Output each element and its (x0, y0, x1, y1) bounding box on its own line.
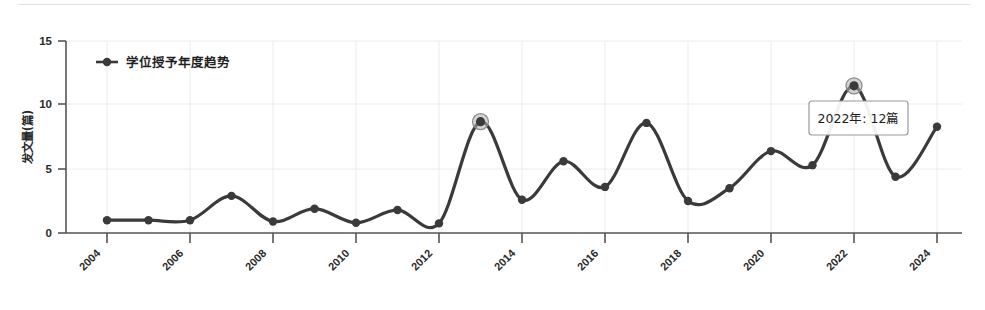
x-tick-label-2024: 2024 (907, 246, 933, 272)
top-divider-rule (18, 4, 970, 5)
x-tick-label-2004: 2004 (77, 246, 103, 272)
series-point-2009[interactable] (310, 204, 318, 212)
series-point-2020[interactable] (767, 147, 775, 155)
legend-item-label: 学位授予年度趋势 (126, 55, 230, 70)
series-point-2017[interactable] (642, 119, 650, 127)
y-tick-label-0: 0 (46, 227, 52, 239)
series-point-2007[interactable] (227, 192, 235, 200)
series-point-2015[interactable] (559, 157, 567, 165)
line-chart-canvas: 15 10 5 0 发文量(篇) 2004 2006 2008 2010 201… (0, 0, 985, 310)
series-point-2005[interactable] (144, 216, 152, 224)
x-tick-label-2018: 2018 (658, 247, 684, 273)
series-point-2008[interactable] (269, 217, 277, 225)
series-point-2023[interactable] (891, 172, 899, 180)
x-tick-labels: 2004 2006 2008 2010 2012 2014 2016 2018 … (77, 246, 933, 272)
y-tick-label-5: 5 (46, 163, 53, 175)
series-point-2024[interactable] (933, 123, 941, 131)
series-point-2019[interactable] (725, 184, 733, 192)
y-axis (58, 41, 66, 233)
x-tick-label-2008: 2008 (243, 247, 269, 273)
legend[interactable]: 学位授予年度趋势 (96, 55, 230, 70)
series-point-2013[interactable] (476, 117, 485, 126)
series-point-2012[interactable] (435, 219, 443, 227)
series-point-2014[interactable] (518, 196, 526, 204)
chart-figure: 15 10 5 0 发文量(篇) 2004 2006 2008 2010 201… (0, 0, 985, 310)
series-point-2018[interactable] (684, 197, 692, 205)
legend-marker-icon (103, 58, 111, 66)
series-point-2022[interactable] (849, 81, 858, 90)
x-tick-label-2012: 2012 (409, 247, 435, 273)
x-tick-label-2010: 2010 (326, 247, 352, 273)
y-tick-label-15: 15 (39, 35, 52, 47)
series-point-2016[interactable] (601, 183, 609, 191)
x-tick-label-2020: 2020 (741, 247, 767, 273)
series-point-2004[interactable] (103, 216, 111, 224)
y-axis-title: 发文量(篇) (21, 110, 35, 166)
series-point-2021[interactable] (808, 161, 816, 169)
y-tick-label-10: 10 (39, 98, 52, 110)
y-tick-labels: 15 10 5 0 (39, 35, 52, 239)
series-point-2006[interactable] (186, 216, 194, 224)
x-tick-label-2014: 2014 (492, 246, 518, 272)
x-axis (66, 233, 962, 243)
series-point-2011[interactable] (393, 206, 401, 214)
series-point-2010[interactable] (352, 219, 360, 227)
x-tick-label-2016: 2016 (575, 247, 601, 273)
x-tick-label-2022: 2022 (824, 247, 850, 273)
tooltip-label: 2022年: 12篇 (818, 111, 900, 126)
x-tick-label-2006: 2006 (160, 247, 186, 273)
tooltip-callout[interactable]: 2022年: 12篇 (809, 101, 908, 135)
